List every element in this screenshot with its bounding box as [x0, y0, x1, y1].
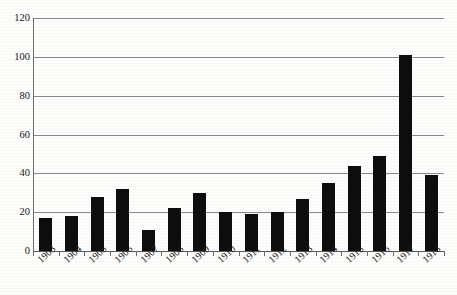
x-tick-mark	[418, 251, 419, 256]
y-tick-label: 60	[0, 130, 30, 140]
bar-1906	[116, 189, 129, 251]
y-tick-label: 0	[0, 246, 30, 256]
bar-1914	[322, 183, 335, 251]
x-axis-tick-labels: 1903190419051906190719081909191019111912…	[33, 257, 457, 295]
x-tick-mark	[213, 251, 214, 256]
x-tick-mark	[264, 251, 265, 256]
y-axis-tick-labels: 120100806040200	[0, 18, 30, 251]
x-tick-mark	[59, 251, 60, 256]
x-tick-mark	[393, 251, 394, 256]
bar-series	[33, 18, 444, 251]
bar-1918	[425, 175, 438, 251]
x-tick-mark	[136, 251, 137, 256]
x-tick-mark	[110, 251, 111, 256]
bar-1917	[399, 55, 412, 251]
x-tick-mark	[367, 251, 368, 256]
x-tick-mark	[33, 251, 34, 256]
x-tick-mark	[84, 251, 85, 256]
x-tick-mark	[187, 251, 188, 256]
x-tick-mark	[161, 251, 162, 256]
y-tick-label: 20	[0, 207, 30, 217]
x-tick-mark	[290, 251, 291, 256]
x-tick-mark	[316, 251, 317, 256]
y-tick-label: 120	[0, 13, 30, 23]
bar-1916	[373, 156, 386, 251]
x-tick-mark	[239, 251, 240, 256]
y-tick-label: 40	[0, 168, 30, 178]
bar-1915	[348, 166, 361, 251]
y-tick-label: 80	[0, 91, 30, 101]
x-tick-mark	[444, 251, 445, 256]
bar-chart: 120100806040200 190319041905190619071908…	[0, 0, 457, 295]
x-tick-mark	[341, 251, 342, 256]
y-tick-label: 100	[0, 52, 30, 62]
